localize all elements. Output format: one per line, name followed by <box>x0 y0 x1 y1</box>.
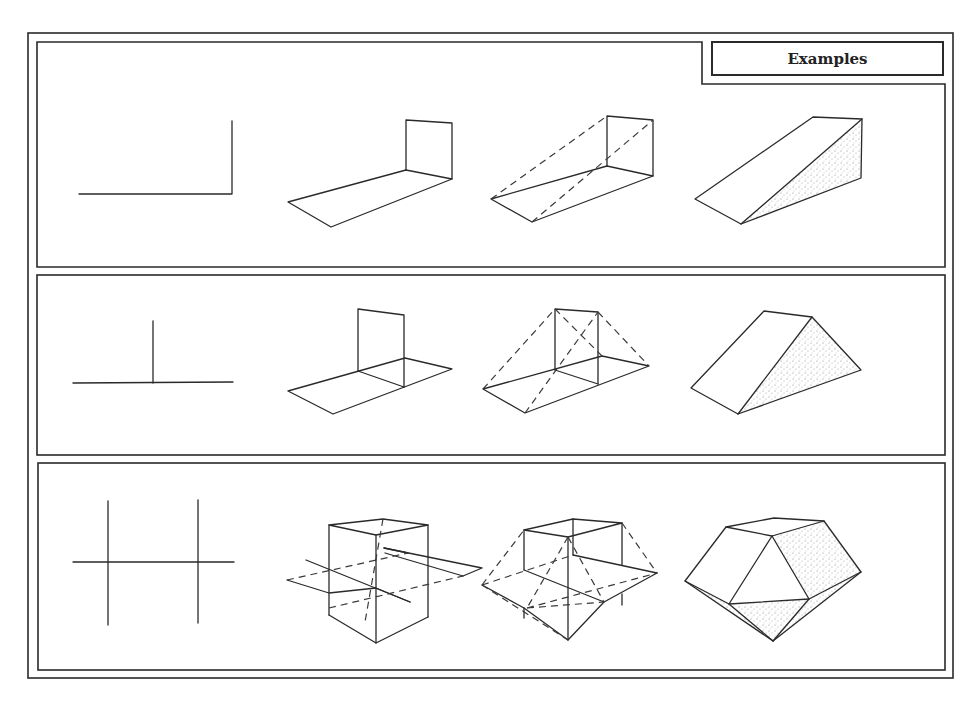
row-2-figure-4-prism <box>691 311 861 414</box>
row-1-figure-4-wedge <box>695 117 862 224</box>
diagram-canvas <box>0 0 979 713</box>
row-1-figure-1-l-lines <box>79 121 232 194</box>
row-2-figure-3-construction <box>483 309 649 413</box>
row-1-figure-2-planes <box>288 120 452 227</box>
row-3-figure-2-box-and-plane <box>287 519 482 643</box>
examples-title: Examples <box>787 50 867 68</box>
row-3-figure-1-cross-lines <box>73 500 234 625</box>
examples-title-box: Examples <box>711 41 944 76</box>
row-2-figure-2-planes <box>288 309 452 414</box>
row-3-figure-4-polyhedron <box>685 518 861 641</box>
row-2-figure-1-t-lines <box>73 321 233 383</box>
row-3-figure-3-construction <box>482 519 657 640</box>
row-1-figure-3-construction <box>491 116 653 222</box>
